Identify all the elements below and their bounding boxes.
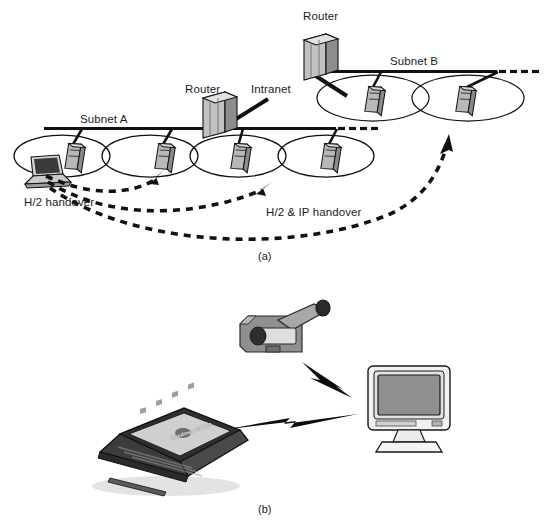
panel-b-caption: (b) — [258, 503, 271, 515]
network-handover-figure: Router Router Intranet Subnet B Subnet A… — [0, 0, 544, 527]
intranet-label: Intranet — [251, 83, 291, 95]
subnet-a-label: Subnet A — [80, 113, 127, 125]
base-station-a4 — [317, 141, 346, 174]
figure-canvas — [0, 0, 544, 527]
base-station-a3 — [227, 141, 256, 174]
router-mid-label: Router — [185, 83, 220, 95]
handheld-pc-icon — [92, 383, 248, 496]
base-station-b1 — [361, 84, 390, 117]
handover-ip-arrowhead — [440, 134, 453, 154]
cell-a2 — [102, 135, 198, 177]
subnet-b-label: Subnet B — [390, 55, 438, 67]
crt-monitor-icon — [368, 366, 450, 452]
camcorder-lens — [316, 300, 330, 316]
monitor-screen — [378, 375, 440, 415]
camcorder-icon — [240, 300, 330, 352]
panel-a-caption: (a) — [258, 250, 271, 262]
lightning-bolt-horizontal — [222, 414, 358, 430]
intranet-links — [228, 71, 347, 124]
wireless-link-laptop-monitor — [222, 414, 358, 430]
base-station-a1 — [61, 141, 90, 174]
wireless-link-camcorder-monitor — [296, 358, 352, 398]
router-top-icon — [304, 34, 338, 80]
base-station-a2 — [151, 141, 180, 174]
panel-b-group — [92, 300, 450, 496]
h2-handover-label: H/2 handover — [24, 196, 94, 208]
lightning-bolt-diagonal — [296, 358, 352, 398]
handover-mid-arrowhead — [256, 182, 272, 196]
base-station-b2 — [452, 84, 481, 117]
router-top-label: Router — [303, 10, 338, 22]
router-mid-icon — [203, 92, 237, 138]
subnet-b-drops — [372, 72, 498, 89]
subnet-b-cells — [317, 75, 524, 121]
h2-ip-handover-label: H/2 & IP handover — [266, 206, 361, 218]
